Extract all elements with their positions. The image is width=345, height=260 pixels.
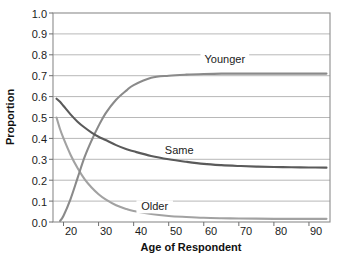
y-tick-label-0.6: 0.6 (32, 91, 47, 103)
x-tick-label-70: 70 (240, 225, 252, 237)
x-axis-title: Age of Respondent (141, 241, 242, 253)
y-tick-label-0.8: 0.8 (32, 49, 47, 61)
y-tick-label-0.5: 0.5 (32, 112, 47, 124)
y-tick-label-0.2: 0.2 (32, 175, 47, 187)
chart-svg: 1.0 0.9 0.8 0.7 0.6 0.5 0.4 0.3 0.2 0.1 … (0, 0, 345, 260)
series-label-same: Same (165, 144, 194, 156)
x-tick-label-20: 20 (65, 225, 77, 237)
series-label-group-same: Same (164, 144, 194, 157)
x-tick-label-90: 90 (310, 225, 322, 237)
y-tick-label-0.1: 0.1 (32, 196, 47, 208)
x-tick-label-40: 40 (135, 225, 147, 237)
chart-figure: 1.0 0.9 0.8 0.7 0.6 0.5 0.4 0.3 0.2 0.1 … (0, 0, 345, 260)
y-axis-title: Proportion (4, 89, 16, 145)
y-tick-label-0.7: 0.7 (32, 70, 47, 82)
y-tick-label-0.4: 0.4 (32, 133, 47, 145)
x-tick-label-50: 50 (170, 225, 182, 237)
y-tick-label-0.9: 0.9 (32, 28, 47, 40)
y-tick-label-0.3: 0.3 (32, 154, 47, 166)
series-label-group-older: Older (136, 200, 173, 213)
series-label-younger: Younger (205, 53, 246, 65)
series-label-older: Older (141, 200, 168, 212)
series-label-group-younger: Younger (200, 53, 249, 66)
x-tick-label-80: 80 (275, 225, 287, 237)
y-tick-label-0.0: 0.0 (32, 217, 47, 229)
x-tick-label-60: 60 (205, 225, 217, 237)
x-tick-label-30: 30 (100, 225, 112, 237)
y-tick-label-1.0: 1.0 (32, 8, 47, 20)
